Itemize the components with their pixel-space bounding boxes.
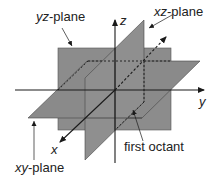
axis-z-label: z bbox=[120, 14, 127, 27]
coordinate-planes-diagram: yz-plane xz-plane xy-plane first octant … bbox=[0, 0, 218, 183]
yz-plane-label: yz-plane bbox=[36, 10, 85, 23]
xz-plane-label: xz-plane bbox=[154, 5, 203, 18]
first-octant-label: first octant bbox=[124, 140, 184, 153]
yz-plane-label-suffix: -plane bbox=[49, 9, 85, 24]
xy-plane-label-suffix: -plane bbox=[28, 160, 64, 175]
axis-y-label: y bbox=[199, 95, 206, 108]
diagram-canvas bbox=[0, 0, 218, 183]
yz-plane-label-var: yz bbox=[36, 9, 49, 24]
axis-x-label: x bbox=[51, 143, 58, 156]
xy-plane-label-var: xy bbox=[15, 160, 28, 175]
xy-plane-label: xy-plane bbox=[15, 161, 64, 174]
xz-plane-label-suffix: -plane bbox=[167, 4, 203, 19]
first-octant-label-text: first octant bbox=[124, 139, 184, 154]
xz-plane-label-var: xz bbox=[154, 4, 167, 19]
yz-plane-pointer bbox=[62, 28, 72, 46]
